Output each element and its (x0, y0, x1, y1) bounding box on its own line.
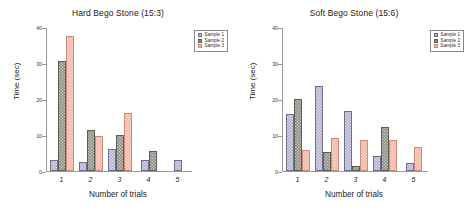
bar (414, 147, 422, 171)
chart-title: Hard Bego Stone (15:3) (0, 8, 236, 18)
legend: Sample 1Sample 2Sample 3 (194, 30, 228, 52)
bar (124, 113, 132, 171)
y-tick-label: 40 (32, 25, 42, 31)
bar (95, 136, 103, 171)
legend-swatch-icon (434, 33, 438, 37)
legend-label: Sample 3 (205, 44, 224, 49)
legend-label: Sample 1 (205, 33, 224, 38)
bar (79, 162, 87, 171)
legend-swatch-icon (434, 39, 438, 43)
legend-label: Sample 3 (441, 44, 460, 49)
bar (87, 130, 95, 171)
bar-group (163, 28, 192, 171)
figure-container: Hard Bego Stone (15:3) Time (sec) 010203… (0, 0, 472, 212)
y-tick-label: 10 (32, 133, 42, 139)
y-axis-label: Time (sec) (12, 63, 21, 100)
x-tick-label: 1 (47, 173, 76, 187)
legend-swatch-icon (198, 33, 202, 37)
legend-item: Sample 3 (434, 44, 460, 49)
x-axis-line (46, 171, 192, 172)
x-tick-label: 3 (341, 173, 370, 187)
y-tick-mark (278, 28, 282, 29)
bar-group (399, 28, 428, 171)
bar (108, 149, 116, 171)
legend-swatch-icon (198, 39, 202, 43)
bar-groups (283, 28, 428, 171)
y-tick-label: 0 (32, 169, 42, 175)
x-tick-label: 5 (399, 173, 428, 187)
bar (294, 99, 302, 171)
bar-group (283, 28, 312, 171)
legend-item: Sample 1 (198, 33, 224, 38)
bar (50, 160, 58, 171)
bar (352, 166, 360, 171)
x-axis-ticks: 12345 (283, 173, 428, 187)
legend-swatch-icon (198, 44, 202, 48)
chart-title: Soft Bego Stone (15:6) (236, 8, 472, 18)
bar (116, 135, 124, 171)
y-tick-mark (42, 28, 46, 29)
legend: Sample 1Sample 2Sample 3 (430, 30, 464, 52)
bar-group (312, 28, 341, 171)
y-tick-mark (278, 64, 282, 65)
bar (381, 127, 389, 171)
bar (344, 111, 352, 171)
y-tick-mark (278, 136, 282, 137)
bar-group (76, 28, 105, 171)
bar-group (47, 28, 76, 171)
plot-area: 010203040 12345 (46, 28, 192, 172)
x-axis-ticks: 12345 (47, 173, 192, 187)
y-tick-mark (42, 100, 46, 101)
bar-group (134, 28, 163, 171)
y-tick-label: 0 (268, 169, 278, 175)
x-tick-label: 3 (105, 173, 134, 187)
legend-item: Sample 3 (198, 44, 224, 49)
x-tick-label: 4 (134, 173, 163, 187)
y-tick-mark (278, 172, 282, 173)
x-tick-label: 2 (76, 173, 105, 187)
bar-group (105, 28, 134, 171)
y-tick-mark (42, 64, 46, 65)
y-tick-mark (42, 172, 46, 173)
bar-groups (47, 28, 192, 171)
x-axis-line (282, 171, 428, 172)
legend-item: Sample 1 (434, 33, 460, 38)
x-axis-label: Number of trials (236, 190, 472, 199)
bar (373, 156, 381, 171)
bar (302, 150, 310, 171)
y-tick-label: 20 (268, 97, 278, 103)
bar (141, 160, 149, 171)
y-tick-label: 30 (268, 61, 278, 67)
y-tick-label: 10 (268, 133, 278, 139)
plot-area: 010203040 12345 (282, 28, 428, 172)
chart-panel-soft: Soft Bego Stone (15:6) Time (sec) 010203… (236, 0, 472, 212)
x-tick-label: 5 (163, 173, 192, 187)
y-tick-mark (278, 100, 282, 101)
bar (360, 140, 368, 171)
x-tick-label: 2 (312, 173, 341, 187)
bar (315, 86, 323, 171)
bar-group (370, 28, 399, 171)
y-tick-mark (42, 136, 46, 137)
y-tick-label: 40 (268, 25, 278, 31)
bar (323, 152, 331, 171)
legend-label: Sample 1 (441, 33, 460, 38)
bar (286, 114, 294, 171)
y-tick-label: 30 (32, 61, 42, 67)
y-axis-label: Time (sec) (248, 63, 257, 100)
bar (406, 163, 414, 171)
bar-group (341, 28, 370, 171)
bar (66, 36, 74, 171)
bar (174, 160, 182, 171)
bar (149, 151, 157, 171)
y-tick-label: 20 (32, 97, 42, 103)
x-axis-label: Number of trials (0, 190, 236, 199)
bar (331, 138, 339, 171)
bar (58, 61, 66, 171)
bar (389, 140, 397, 171)
chart-panel-hard: Hard Bego Stone (15:3) Time (sec) 010203… (0, 0, 236, 212)
x-tick-label: 1 (283, 173, 312, 187)
x-tick-label: 4 (370, 173, 399, 187)
legend-swatch-icon (434, 44, 438, 48)
